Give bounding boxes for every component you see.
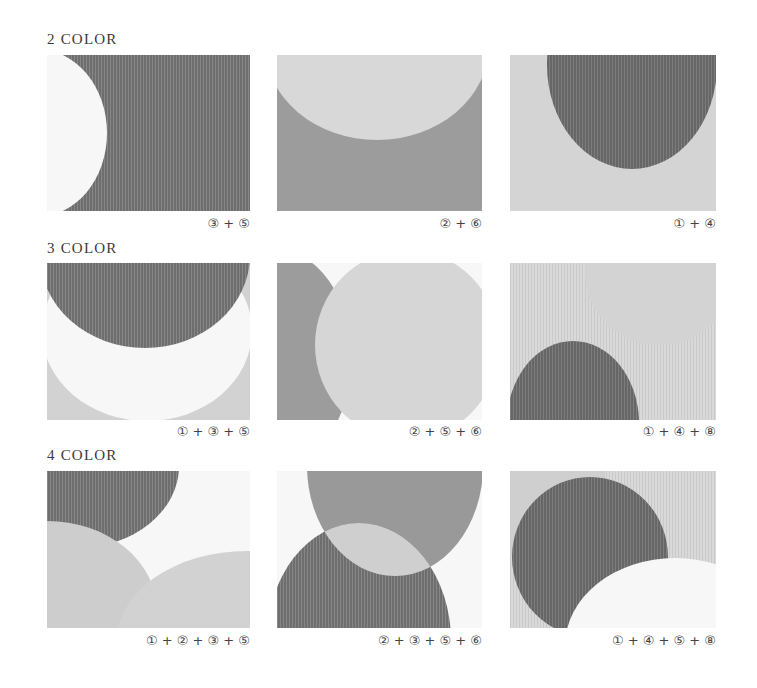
caption-1-4: ① + ④	[616, 216, 716, 231]
section-title-4-color: 4 COLOR	[47, 447, 118, 464]
caption-1-3-5: ① + ③ + ⑤	[130, 424, 250, 439]
color-swatch-2-3-5-6	[277, 471, 482, 628]
caption-2-6: ② + ⑥	[382, 216, 482, 231]
color-swatch-2-6	[277, 55, 482, 211]
caption-1-4-8: ① + ④ + ⑧	[596, 424, 716, 439]
color-swatch-1-3-5	[47, 263, 250, 420]
caption-1-2-3-5: ① + ② + ③ + ⑤	[110, 633, 250, 648]
caption-2-5-6: ② + ⑤ + ⑥	[362, 424, 482, 439]
color-swatch-1-2-3-5	[47, 471, 250, 628]
caption-2-3-5-6: ② + ③ + ⑤ + ⑥	[342, 633, 482, 648]
color-swatch-1-4	[510, 55, 716, 211]
color-swatch-1-4-5-8	[510, 471, 716, 628]
color-swatch-2-5-6	[277, 263, 482, 420]
caption-3-5: ③ + ⑤	[150, 216, 250, 231]
color-swatch-1-4-8	[510, 263, 716, 420]
caption-1-4-5-8: ① + ④ + ⑤ + ⑧	[576, 633, 716, 648]
section-title-3-color: 3 COLOR	[47, 240, 118, 257]
section-title-2-color: 2 COLOR	[47, 31, 118, 48]
color-swatch-3-5	[47, 55, 250, 211]
